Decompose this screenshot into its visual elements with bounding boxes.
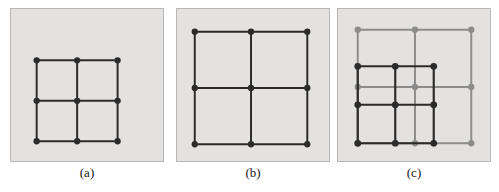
panel-c-caption: (c)	[337, 164, 491, 182]
lattice-node	[354, 101, 361, 108]
panel-c-dark-grid	[354, 63, 437, 147]
panel-b-dark-grid	[192, 29, 311, 148]
panel-a-caption: (a)	[10, 164, 164, 182]
panel-b-graph	[177, 9, 329, 161]
lattice-node	[34, 57, 40, 63]
lattice-node	[392, 63, 399, 70]
lattice-node	[192, 85, 198, 91]
lattice-node	[248, 85, 254, 91]
lattice-node	[74, 138, 80, 144]
lattice-node	[354, 140, 361, 147]
panel-b	[176, 8, 330, 162]
panel-a	[10, 8, 164, 162]
lattice-node	[304, 85, 310, 91]
lattice-node	[74, 98, 80, 104]
lattice-node	[114, 98, 120, 104]
lattice-node	[34, 98, 40, 104]
lattice-node	[412, 84, 418, 90]
lattice-node	[304, 141, 310, 147]
lattice-node	[430, 63, 437, 70]
lattice-node	[412, 27, 418, 33]
lattice-node	[468, 140, 474, 146]
panel-c-gray-grid	[355, 27, 475, 147]
lattice-node	[74, 57, 80, 63]
lattice-node	[114, 138, 120, 144]
lattice-node	[248, 141, 254, 147]
lattice-node	[430, 140, 437, 147]
lattice-node	[34, 138, 40, 144]
lattice-node	[468, 27, 474, 33]
lattice-node	[114, 57, 120, 63]
lattice-node	[192, 29, 198, 35]
lattice-node	[354, 63, 361, 70]
panel-a-dark-grid	[34, 57, 121, 144]
lattice-node	[355, 27, 361, 33]
panel-c	[337, 8, 491, 162]
lattice-node	[468, 84, 474, 90]
lattice-node	[392, 140, 399, 147]
lattice-node	[248, 29, 254, 35]
lattice-node	[392, 101, 399, 108]
figure-container: (a) (b) (c)	[0, 0, 499, 192]
lattice-node	[192, 141, 198, 147]
panel-c-graph	[338, 9, 490, 161]
panel-a-graph	[11, 9, 163, 161]
lattice-node	[304, 29, 310, 35]
lattice-node	[430, 101, 437, 108]
panel-b-caption: (b)	[176, 164, 330, 182]
